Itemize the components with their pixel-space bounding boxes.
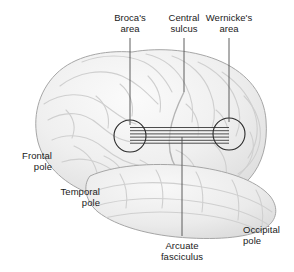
label-arcuate-fasciculus-line1: Arcuate [132,240,232,251]
label-temporal-pole-line2: pole [34,197,100,208]
label-wernickes-area-line2: area [184,23,274,34]
brain-diagram-figure: Broca's area Central sulcus Wernicke's a… [0,0,294,272]
label-temporal-pole-line1: Temporal [34,186,100,197]
label-occipital-pole: Occipital pole [243,224,294,246]
label-frontal-pole: Frontal pole [0,150,52,172]
label-frontal-pole-line1: Frontal [0,150,52,161]
label-frontal-pole-line2: pole [0,161,52,172]
label-occipital-pole-line1: Occipital [243,224,294,235]
label-wernickes-area-line1: Wernicke's [184,12,274,23]
label-wernickes-area: Wernicke's area [184,12,274,34]
label-arcuate-fasciculus-line2: fasciculus [132,251,232,262]
label-occipital-pole-line2: pole [243,235,294,246]
label-arcuate-fasciculus: Arcuate fasciculus [132,240,232,262]
label-temporal-pole: Temporal pole [34,186,100,208]
